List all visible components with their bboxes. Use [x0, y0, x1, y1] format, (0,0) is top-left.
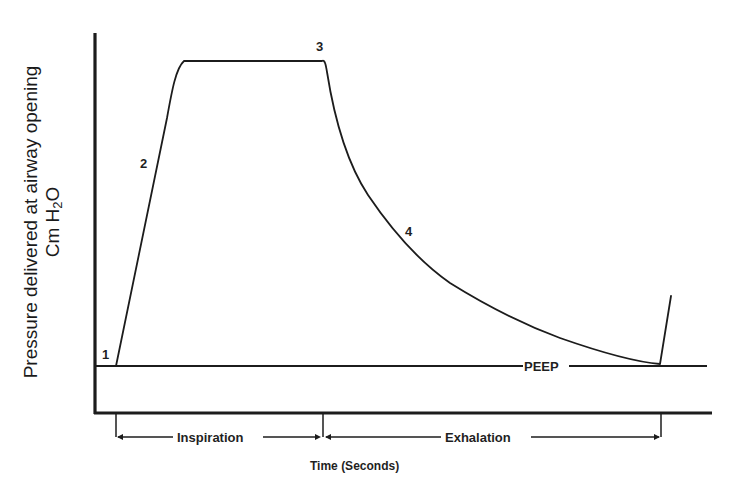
exhalation-label: Exhalation [445, 430, 511, 445]
pressure-time-diagram: PEEP 1 2 3 4 Inspiration Exhalation Time… [0, 0, 742, 496]
point-label-3: 3 [316, 39, 323, 54]
point-label-2: 2 [140, 156, 147, 171]
arrow-right-icon [654, 434, 660, 440]
pressure-curve [116, 61, 671, 366]
arrow-left-icon [325, 434, 331, 440]
inspiration-label: Inspiration [177, 430, 244, 445]
x-axis-label: Time (Seconds) [310, 459, 399, 473]
peep-label: PEEP [524, 359, 559, 374]
arrow-left-icon [117, 434, 123, 440]
point-label-1: 1 [102, 347, 109, 362]
point-label-4: 4 [405, 224, 413, 239]
arrow-right-icon [315, 434, 321, 440]
